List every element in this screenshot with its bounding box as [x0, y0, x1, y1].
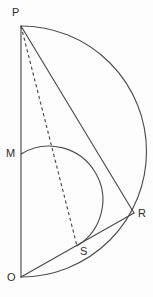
vertex-label-s: S	[80, 246, 87, 257]
vertex-label-m: M	[6, 148, 15, 159]
vertex-label-p: P	[12, 7, 19, 18]
vertex-label-o: O	[7, 272, 16, 283]
segment-or	[21, 213, 134, 277]
segment-pr	[21, 26, 134, 213]
arc-semicircle-ms	[21, 146, 103, 246]
figure-canvas	[0, 0, 153, 297]
segment-ps-dashed	[21, 26, 77, 246]
geometry-figure: P M R S O	[0, 0, 153, 297]
vertex-label-r: R	[138, 208, 146, 219]
arc-semicircle-pro	[21, 26, 147, 277]
